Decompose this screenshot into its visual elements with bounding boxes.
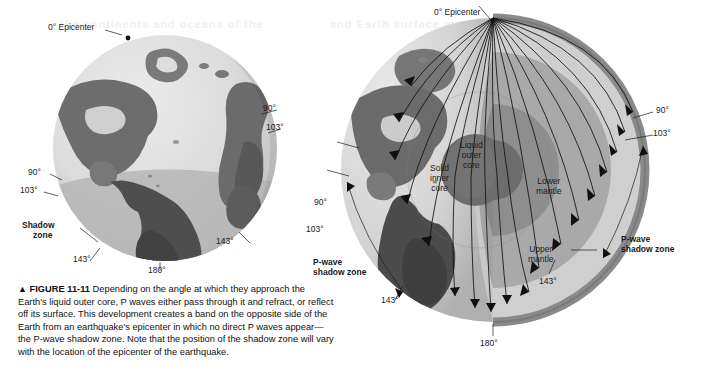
left-shadow-zone-line2: shadow zone [313, 267, 366, 277]
upper-mantle-line2: mantle [528, 254, 554, 264]
left-globe-diagram [0, 0, 330, 285]
right-epicenter-label: 0° Epicenter [434, 8, 480, 18]
right-angle-103: 103° [653, 129, 671, 139]
figure-container: the continents and oceans of the and Ear… [0, 0, 703, 379]
right-angle-143: 143° [539, 277, 557, 287]
caption-body: Depending on the angle at which they app… [18, 284, 334, 357]
caption-figure-number: FIGURE 11-11 [30, 284, 90, 294]
left-epicenter-leader [105, 30, 122, 35]
upper-mantle-line1: Upper [529, 244, 552, 254]
right-shadow-zone-label: P-wave shadow zone [621, 235, 674, 254]
left-angle-103-left: 103° [20, 186, 38, 196]
left-shadow-zone-label-line2: zone [33, 231, 52, 241]
caption-triangle-marker: ▲ [18, 284, 27, 294]
left-shadow-zone-label-right-globe: P-wave shadow zone [313, 258, 366, 277]
inner-core-line3: core [431, 183, 448, 193]
left-angle-90-right: 90° [263, 104, 276, 114]
left-leader-103-left [44, 192, 58, 196]
inner-core-line2: inner [430, 173, 449, 183]
lower-mantle-label: Lower mantle [536, 176, 562, 196]
outer-core-label: Liquid outer core [460, 140, 483, 170]
left-leader-143-right [239, 232, 250, 243]
left-angle-90-left: 90° [28, 168, 41, 178]
left-angle-143-right: 143° [216, 237, 234, 247]
inner-core-line1: Solid [430, 163, 449, 173]
left-angle-180: 180° [148, 266, 166, 276]
inner-core-label: Solid inner core [430, 163, 449, 193]
left-shadow-zone-line1: P-wave [313, 257, 342, 267]
lower-mantle-line1: Lower [537, 176, 560, 186]
outer-core-line3: core [463, 160, 480, 170]
left-angle-103-right: 103° [266, 123, 284, 133]
lower-mantle-line2: mantle [536, 186, 562, 196]
left-leader-143-left [90, 248, 100, 261]
left-epicenter-label: 0° Epicenter [48, 23, 94, 33]
right-globe-angle-90-left: 90° [314, 198, 327, 208]
right-shadow-zone-line2: shadow zone [621, 244, 674, 254]
right-angle-90: 90° [656, 106, 669, 116]
left-epicenter-dot [126, 36, 131, 41]
outer-core-line2: outer [462, 150, 481, 160]
right-epicenter-leader [479, 6, 491, 20]
figure-caption: ▲ FIGURE 11-11 Depending on the angle at… [18, 283, 336, 359]
outer-core-line1: Liquid [460, 140, 483, 150]
right-shadow-zone-line1: P-wave [621, 234, 650, 244]
upper-mantle-label: Upper mantle [528, 244, 554, 264]
right-cutaway-diagram [303, 0, 703, 379]
earth-interior-layers [493, 18, 645, 322]
right-globe-angle-103-left: 103° [306, 225, 324, 235]
left-angle-143-left: 143° [73, 255, 91, 265]
right-globe-angle-143-left: 143° [381, 296, 399, 306]
right-angle-180: 180° [480, 339, 498, 349]
